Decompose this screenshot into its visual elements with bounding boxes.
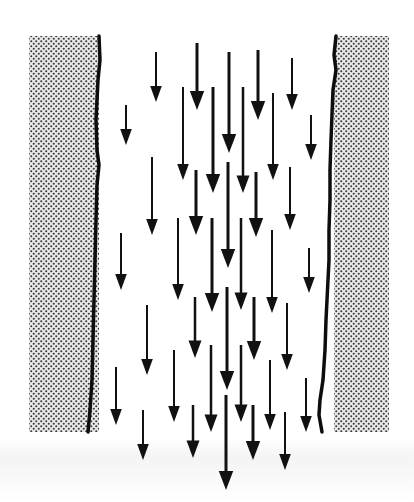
down-arrow-icon	[219, 395, 233, 490]
down-arrow-icon	[249, 172, 263, 237]
arrow-head	[222, 134, 236, 153]
down-arrow-icon	[172, 218, 184, 300]
arrow-head	[235, 293, 248, 311]
down-arrow-icon	[281, 303, 293, 370]
down-arrow-icon	[305, 115, 317, 160]
down-arrow-icon	[150, 52, 162, 102]
down-arrow-icon	[141, 305, 153, 375]
down-arrow-icon	[235, 345, 248, 422]
down-arrow-icon	[110, 367, 122, 425]
arrow-head	[235, 405, 248, 423]
arrow-head	[110, 409, 122, 425]
arrow-head	[267, 164, 279, 180]
arrow-head	[305, 144, 317, 160]
down-arrow-icon	[264, 360, 276, 430]
arrow-head	[251, 101, 265, 120]
arrow-head	[279, 454, 291, 470]
arrow-head	[206, 174, 220, 193]
down-arrow-icon	[205, 345, 218, 432]
arrow-head	[205, 415, 218, 433]
right-wall-edge	[319, 36, 336, 432]
down-arrow-icon	[221, 162, 235, 268]
down-arrow-icon	[300, 378, 312, 432]
arrow-head	[189, 341, 202, 359]
down-arrow-icon	[237, 87, 250, 193]
down-arrow-icon	[235, 218, 248, 310]
down-arrow-icon	[206, 87, 220, 193]
arrow-head	[168, 406, 180, 422]
arrow-head	[177, 164, 189, 180]
down-arrow-icon	[189, 297, 202, 358]
down-arrow-icon	[187, 405, 200, 458]
arrow-head	[246, 441, 260, 460]
down-arrow-icon	[137, 410, 149, 460]
left-wall	[29, 36, 100, 432]
right-wall-stipple	[334, 36, 389, 432]
down-arrow-icon	[146, 157, 158, 235]
down-arrow-icon	[205, 218, 219, 312]
arrow-head	[120, 129, 132, 145]
arrow-head	[300, 416, 312, 432]
arrow-head	[189, 216, 203, 235]
arrow-head	[146, 219, 158, 235]
down-arrow-icon	[220, 287, 234, 390]
arrow-head	[281, 354, 293, 370]
arrow-head	[249, 218, 263, 237]
arrow-head	[137, 444, 149, 460]
down-arrow-icon	[120, 105, 132, 145]
arrow-head	[220, 371, 234, 390]
down-arrow-icon	[247, 297, 261, 360]
arrow-head	[247, 341, 261, 360]
down-arrow-icon	[168, 350, 180, 422]
down-arrow-icon	[266, 230, 278, 313]
arrow-head	[172, 284, 184, 300]
arrow-head	[303, 277, 315, 293]
arrow-head	[264, 414, 276, 430]
down-arrow-icon	[284, 167, 296, 230]
arrow-head	[187, 441, 200, 459]
arrow-head	[221, 249, 235, 268]
down-arrow-icon	[115, 233, 127, 290]
down-arrow-icon	[279, 412, 291, 470]
arrow-head	[205, 293, 219, 312]
down-arrow-icon	[286, 58, 298, 110]
flow-arrows	[110, 43, 317, 490]
arrow-head	[266, 297, 278, 313]
down-arrow-icon	[251, 50, 265, 120]
arrow-head	[150, 86, 162, 102]
down-arrow-icon	[190, 43, 204, 110]
arrow-head	[141, 359, 153, 375]
down-arrow-icon	[303, 248, 315, 293]
left-wall-stipple	[29, 36, 99, 432]
arrow-head	[115, 274, 127, 290]
arrow-head	[219, 471, 233, 490]
down-arrow-icon	[177, 87, 189, 180]
down-arrow-icon	[189, 170, 203, 235]
arrow-head	[286, 94, 298, 110]
right-wall	[319, 36, 389, 432]
down-arrow-icon	[246, 405, 260, 460]
arrow-head	[237, 176, 250, 194]
arrow-head	[284, 214, 296, 230]
flow-diagram	[0, 0, 414, 502]
down-arrow-icon	[222, 52, 236, 153]
arrow-head	[190, 91, 204, 110]
down-arrow-icon	[267, 93, 279, 180]
